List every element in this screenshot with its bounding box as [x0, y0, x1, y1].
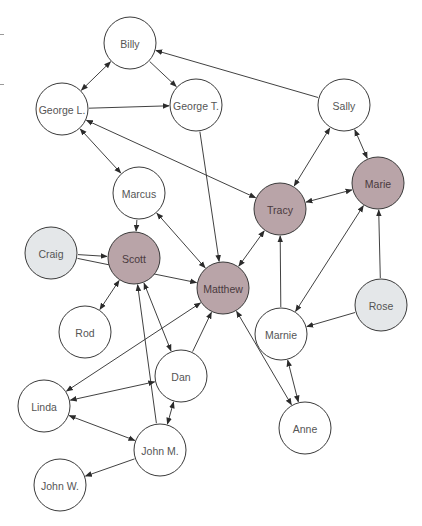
edge-scott-rod [100, 281, 119, 310]
node-georgeL: George L. [36, 83, 88, 135]
node-label: Rod [75, 327, 94, 339]
node-label: Sally [333, 100, 357, 112]
node-sally: Sally [318, 79, 370, 131]
node-craig: Craig [25, 227, 77, 279]
node-label: Tracy [267, 204, 294, 216]
nodes-layer: BillyGeorge L.George T.SallyMarcusTracyM… [18, 17, 407, 511]
node-label: George T. [173, 100, 219, 112]
node-marie: Marie [352, 157, 404, 209]
node-label: John W. [41, 480, 79, 492]
node-label: John M. [141, 445, 178, 457]
node-label: Marie [365, 178, 391, 190]
edge-sally-marie [355, 130, 367, 158]
edge-craig-scott [78, 255, 107, 257]
node-billy: Billy [104, 17, 156, 69]
node-dan: Dan [155, 350, 207, 402]
edge-dan-johnM [167, 402, 173, 424]
node-label: Scott [122, 253, 146, 265]
node-johnW: John W. [34, 459, 86, 511]
edge-marnie-marie [296, 206, 364, 312]
node-marnie: Marnie [255, 308, 307, 360]
edge-tracy-sally [294, 128, 330, 186]
node-georgeT: George T. [170, 79, 222, 131]
edge-linda-johnM [69, 416, 135, 441]
edge-marie-tracy [306, 190, 352, 202]
edge-rose-marnie [307, 313, 355, 327]
node-scott: Scott [108, 232, 160, 284]
edge-billy-georgeT [150, 62, 177, 87]
edge-tracy-georgeL [87, 120, 256, 197]
node-anne: Anne [279, 402, 331, 454]
edge-tracy-matthew [239, 231, 264, 266]
node-label: Anne [293, 423, 318, 435]
edge-marcus-matthew [157, 213, 205, 268]
node-label: Craig [38, 248, 63, 260]
node-marcus: Marcus [113, 167, 165, 219]
node-label: Marnie [265, 329, 297, 341]
node-rose: Rose [355, 279, 407, 331]
node-label: Billy [120, 38, 140, 50]
node-matthew: Matthew [197, 262, 249, 314]
node-johnM: John M. [134, 424, 186, 476]
edge-georgeT-matthew [200, 132, 219, 262]
edge-georgeL-marcus [80, 129, 121, 173]
edge-dan-linda [70, 382, 154, 400]
edge-billy-georgeL [81, 62, 110, 90]
edge-johnM-scott [138, 285, 157, 423]
edge-dan-matthew [193, 312, 212, 351]
node-label: Rose [369, 300, 394, 312]
network-diagram: BillyGeorge L.George T.SallyMarcusTracyM… [0, 0, 422, 526]
node-label: Dan [171, 371, 190, 383]
node-label: George L. [39, 104, 86, 116]
edge-marnie-anne [288, 360, 299, 402]
edge-rose-marie [379, 210, 381, 278]
node-tracy: Tracy [254, 183, 306, 235]
edge-marcus-scott [136, 220, 137, 231]
edge-marnie-tracy [280, 236, 281, 307]
edge-georgeL-georgeT [89, 106, 169, 108]
node-linda: Linda [18, 380, 70, 432]
node-rod: Rod [59, 306, 111, 358]
node-label: Marcus [122, 188, 156, 200]
edge-scott-dan [144, 283, 171, 351]
node-label: Matthew [203, 283, 243, 295]
edge-johnM-johnW [86, 459, 135, 476]
node-label: Linda [31, 401, 57, 413]
